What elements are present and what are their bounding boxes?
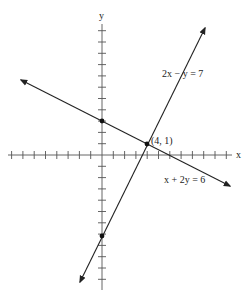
- line-label-x-plus-2y: x + 2y = 6: [164, 174, 205, 185]
- intersection-label: (4, 1): [151, 135, 173, 147]
- y-intercept-point-neg7: [100, 234, 105, 239]
- line-label-2x-minus-y: 2x − y = 7: [162, 68, 203, 79]
- coordinate-graph: x y 2x − y = 7 x + 2y = 6 (4, 1): [0, 0, 249, 295]
- line-x-plus-2y-eq-6: [21, 80, 230, 186]
- y-axis: [98, 24, 106, 290]
- y-intercept-point-3: [100, 119, 105, 124]
- x-axis: [8, 151, 232, 159]
- y-axis-label: y: [99, 10, 104, 21]
- x-axis-label: x: [236, 149, 241, 160]
- intersection-point: [145, 142, 150, 147]
